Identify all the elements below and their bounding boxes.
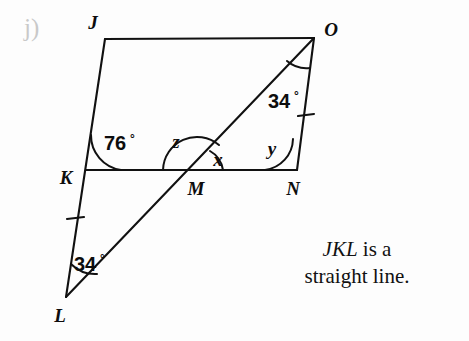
- diagram-canvas: j) J O K N M L 76 ° 34: [0, 0, 469, 341]
- note-line-1-rest: is a: [358, 237, 392, 261]
- angle-label-k-degree: °: [130, 132, 135, 146]
- geometry-figure: J O K N M L 76 ° 34 ° 34 ° z x y: [0, 0, 469, 341]
- vertex-label-m: M: [187, 178, 206, 199]
- angle-label-z: z: [171, 131, 180, 152]
- angle-label-l-degree: °: [100, 252, 105, 266]
- vertex-label-k: K: [59, 167, 74, 188]
- angle-label-k-value: 76: [104, 132, 126, 154]
- note-text: JKL is a straight line.: [262, 236, 452, 290]
- angle-label-o-value: 34: [268, 90, 291, 112]
- vertex-label-o: O: [324, 19, 338, 40]
- angle-label-y: y: [266, 138, 277, 159]
- angle-label-o-degree: °: [294, 89, 299, 103]
- vertex-label-l: L: [53, 305, 66, 326]
- vertex-label-n: N: [285, 178, 301, 199]
- note-line-1: JKL is a: [262, 236, 452, 263]
- tick-mark-on-icon: [298, 114, 314, 116]
- angle-label-x: x: [212, 149, 223, 170]
- angle-label-l-value: 34: [74, 253, 97, 275]
- vertex-label-j: J: [87, 12, 98, 33]
- note-italic-jkl: JKL: [323, 237, 358, 261]
- segment-jo-line: [105, 38, 314, 39]
- tick-mark-kl-icon: [67, 217, 84, 219]
- segment-on-line: [297, 38, 314, 170]
- note-line-2: straight line.: [262, 263, 452, 290]
